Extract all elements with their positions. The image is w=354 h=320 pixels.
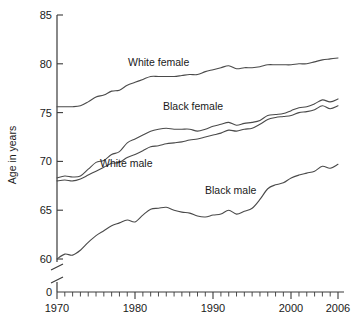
- series-label-white-male: White male: [100, 157, 153, 169]
- x-tick-label-2006: 2006: [326, 302, 350, 314]
- y-tick-marks: [57, 15, 63, 259]
- y-axis-break-mark-upper: [51, 264, 63, 270]
- series-label-black-female: Black female: [163, 100, 223, 112]
- x-tick-label-1970: 1970: [45, 302, 69, 314]
- y-tick-label-65: 65: [40, 204, 52, 216]
- series-label-black-male: Black male: [205, 184, 257, 196]
- series-line-white-male: [57, 106, 338, 181]
- x-tick-label-1990: 1990: [201, 302, 225, 314]
- x-tick-label-2000: 2000: [279, 302, 303, 314]
- life-expectancy-chart: 85 80 75 70 65 60 0 1970 1980 1990 2000 …: [0, 0, 354, 320]
- y-tick-label-70: 70: [40, 155, 52, 167]
- y-tick-label-80: 80: [40, 58, 52, 70]
- series-label-white-female: White female: [128, 56, 189, 68]
- y-tick-label-85: 85: [40, 9, 52, 21]
- y-tick-label-75: 75: [40, 107, 52, 119]
- x-tick-label-1980: 1980: [123, 302, 147, 314]
- y-axis-title: Age in years: [6, 126, 18, 184]
- x-minor-tick-marks: [65, 292, 330, 297]
- series-line-black-male: [57, 164, 338, 259]
- y-tick-label-60: 60: [40, 253, 52, 265]
- y-tick-label-zero: 0: [46, 286, 52, 298]
- chart-canvas: 85 80 75 70 65 60 0 1970 1980 1990 2000 …: [0, 0, 354, 320]
